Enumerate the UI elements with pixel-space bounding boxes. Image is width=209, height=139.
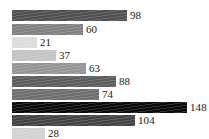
- bar-left-margin: [0, 120, 12, 121]
- bar-row: 98: [0, 9, 141, 22]
- bar-left-margin: [0, 15, 12, 16]
- bar-value-label: 148: [190, 102, 207, 113]
- bar-row: 104: [0, 114, 155, 127]
- bar-value-label: 60: [86, 24, 97, 35]
- bar-1[interactable]: [12, 10, 127, 21]
- bar-value-label: 98: [130, 10, 141, 21]
- bar-value-label: 88: [119, 76, 130, 87]
- bar-chart: 9860213763887414810428: [0, 0, 209, 139]
- bar-2[interactable]: [12, 24, 83, 35]
- bar-row: 148: [0, 101, 207, 114]
- bar-6[interactable]: [12, 76, 116, 87]
- bar-4[interactable]: [12, 50, 56, 61]
- bar-row: 37: [0, 49, 70, 62]
- bar-left-margin: [0, 42, 12, 43]
- bar-left-margin: [0, 81, 12, 82]
- bar-3[interactable]: [12, 37, 37, 48]
- bar-left-margin: [0, 94, 12, 95]
- bar-5[interactable]: [12, 63, 86, 74]
- bar-left-margin: [0, 68, 12, 69]
- bar-7[interactable]: [12, 89, 99, 100]
- bar-left-margin: [0, 133, 12, 134]
- bar-row: 60: [0, 23, 97, 36]
- bar-10[interactable]: [12, 128, 45, 139]
- bar-row: 88: [0, 75, 130, 88]
- bar-9[interactable]: [12, 115, 135, 126]
- bar-left-margin: [0, 55, 12, 56]
- bar-value-label: 28: [48, 128, 59, 139]
- bar-value-label: 104: [138, 115, 155, 126]
- bar-value-label: 21: [40, 37, 51, 48]
- bar-row: 21: [0, 36, 51, 49]
- bar-value-label: 74: [102, 89, 113, 100]
- bar-left-margin: [0, 107, 12, 108]
- bar-8[interactable]: [12, 102, 187, 113]
- bar-value-label: 37: [59, 50, 70, 61]
- bar-row: 28: [0, 127, 59, 139]
- bar-value-label: 63: [89, 63, 100, 74]
- bar-row: 74: [0, 88, 113, 101]
- plot-area: 9860213763887414810428: [0, 0, 209, 139]
- bar-row: 63: [0, 62, 100, 75]
- bar-left-margin: [0, 29, 12, 30]
